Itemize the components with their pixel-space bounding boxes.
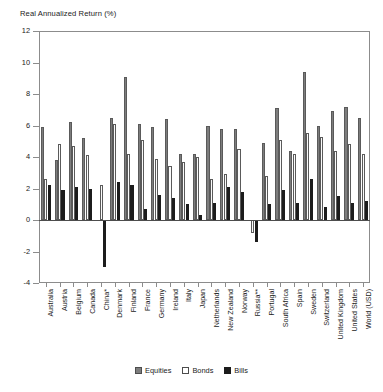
bar-bills: [255, 220, 258, 242]
bar-bills: [337, 196, 340, 220]
legend-swatch-bonds-icon: [182, 367, 189, 374]
bar-bonds: [100, 185, 103, 220]
legend-label: Bills: [234, 366, 248, 375]
x-axis-tick-label: Australia: [48, 289, 55, 317]
bar-bills: [75, 187, 78, 220]
x-axis-tick-label: Finland: [131, 289, 138, 312]
x-axis-tick-label: Canada: [90, 289, 97, 314]
legend-swatch-bills-icon: [224, 367, 231, 374]
bar-series-layer: [0, 0, 383, 392]
x-axis-tick-label: World (USD): [366, 289, 373, 329]
x-axis-tick-label: France: [145, 289, 152, 311]
bar-bills: [268, 204, 271, 220]
legend-swatch-equities-icon: [135, 367, 142, 374]
x-axis-tick-label: Ireland: [173, 289, 180, 311]
x-axis-tick-label: Russia**: [255, 289, 262, 316]
bar-bills: [282, 190, 285, 220]
x-axis-tick-label: Austria: [62, 289, 69, 311]
x-axis-tick-label: New Zealand: [228, 289, 235, 331]
bar-bills: [324, 207, 327, 220]
bar-bills: [48, 185, 51, 220]
x-axis-tick-label: South Africa: [283, 289, 290, 327]
zero-baseline: [39, 220, 370, 221]
x-axis-tick-label: United Kingdom: [338, 289, 345, 339]
bar-bills: [310, 179, 313, 220]
bar-bills: [89, 189, 92, 221]
bar-bills: [117, 182, 120, 220]
bar-bills: [213, 203, 216, 220]
legend-item-bonds: Bonds: [182, 366, 213, 375]
legend-item-bills: Bills: [224, 366, 248, 375]
bar-bills: [103, 220, 106, 267]
x-axis-tick-label: Netherlands: [214, 289, 221, 327]
bar-bills: [351, 203, 354, 220]
x-axis-tick-label: Sweden: [311, 289, 318, 315]
bar-bonds: [141, 140, 144, 220]
x-axis-tick-label: Belgium: [76, 289, 83, 315]
bar-bills: [241, 192, 244, 220]
bar-bills: [186, 204, 189, 220]
x-axis-tick-label: Spain: [297, 289, 304, 307]
x-axis-tick-label: Portugal: [269, 289, 276, 315]
bar-bills: [172, 198, 175, 220]
bar-bonds: [196, 157, 199, 220]
x-axis-tick-label: Denmark: [117, 289, 124, 318]
bar-bills: [227, 187, 230, 220]
x-axis-tick-label: Norway: [242, 289, 249, 313]
bar-bills: [296, 203, 299, 220]
x-axis-tick-label: Japan: [200, 289, 207, 308]
x-axis-tick-label: Italy: [186, 289, 193, 302]
x-axis-tick-label: United States: [352, 289, 359, 332]
chart-container: Real Annualized Return (%) -4-2024681012…: [0, 0, 383, 392]
legend-label: Bonds: [192, 366, 213, 375]
legend-label: Equities: [145, 366, 171, 375]
chart-legend: EquitiesBondsBills: [0, 366, 383, 375]
x-axis-tick-label: China*: [104, 289, 111, 310]
bar-bills: [365, 201, 368, 220]
bar-bills: [61, 190, 64, 220]
x-axis-tick-label: Germany: [159, 289, 166, 318]
bar-bills: [130, 185, 133, 220]
legend-item-equities: Equities: [135, 366, 171, 375]
bar-bills: [144, 209, 147, 220]
bar-bills: [158, 195, 161, 220]
x-axis-tick-label: Switzerland: [324, 289, 331, 326]
